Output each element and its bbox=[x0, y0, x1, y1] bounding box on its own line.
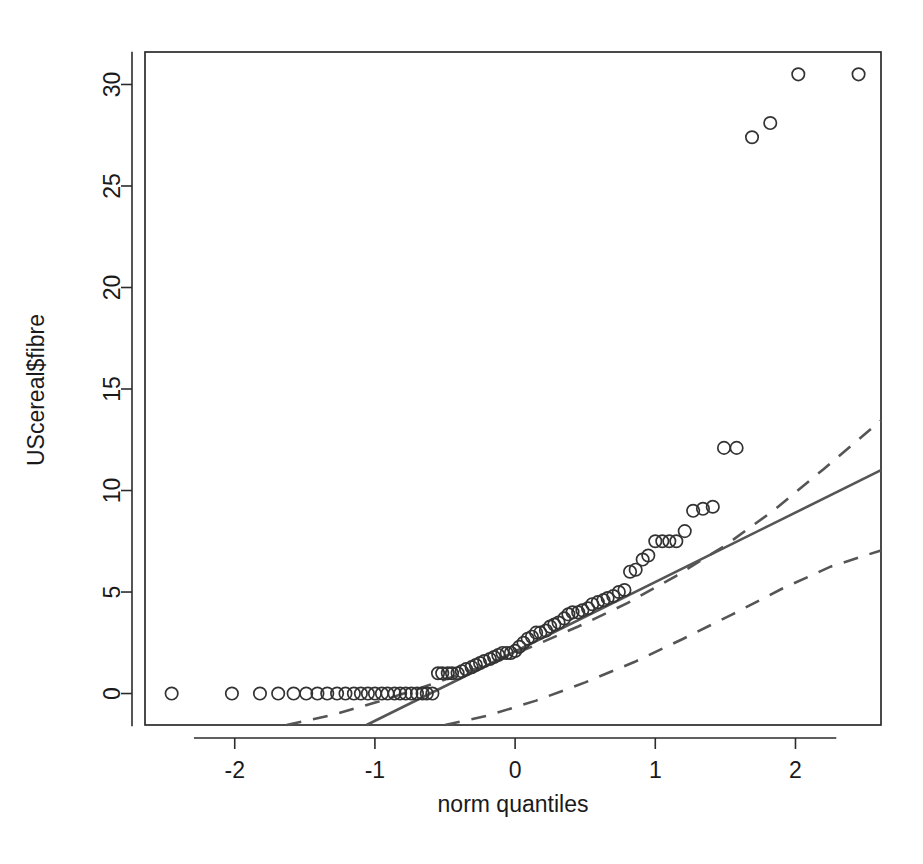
y-axis-title: UScereal$fibre bbox=[23, 314, 49, 466]
y-tick-label: 20 bbox=[99, 275, 125, 301]
confidence-bands bbox=[287, 420, 881, 725]
qq-plot-canvas: -2-1012 051015202530 norm quantiles USce… bbox=[0, 0, 923, 864]
data-point bbox=[764, 117, 776, 129]
data-point bbox=[852, 68, 864, 80]
x-tick-label: 1 bbox=[649, 757, 662, 783]
y-tick-label: 10 bbox=[99, 478, 125, 504]
confidence-band-path bbox=[287, 420, 881, 725]
data-point bbox=[679, 525, 691, 537]
y-tick-label: 15 bbox=[99, 376, 125, 402]
x-tick-label: 2 bbox=[789, 757, 802, 783]
data-point bbox=[718, 442, 730, 454]
data-point bbox=[272, 687, 284, 699]
qq-plot-figure: -2-1012 051015202530 norm quantiles USce… bbox=[0, 0, 923, 864]
data-point bbox=[254, 687, 266, 699]
reference-line-path bbox=[367, 470, 882, 725]
data-point bbox=[226, 687, 238, 699]
reference-line bbox=[367, 470, 882, 725]
x-tick-label: -2 bbox=[224, 757, 244, 783]
x-axis-title: norm quantiles bbox=[438, 791, 589, 817]
y-tick-label: 30 bbox=[99, 72, 125, 98]
data-point bbox=[792, 68, 804, 80]
confidence-band-path bbox=[445, 550, 881, 725]
y-tick-label: 0 bbox=[99, 687, 125, 700]
data-point bbox=[730, 442, 742, 454]
data-point bbox=[746, 131, 758, 143]
y-tick-label: 5 bbox=[99, 586, 125, 599]
x-tick-label: 0 bbox=[509, 757, 522, 783]
x-tick-label: -1 bbox=[365, 757, 385, 783]
plot-frame-rect bbox=[145, 52, 881, 725]
data-points bbox=[165, 68, 864, 700]
y-axis: 051015202530 bbox=[99, 52, 132, 725]
x-axis: -2-1012 bbox=[195, 738, 836, 783]
y-tick-label: 25 bbox=[99, 173, 125, 199]
data-point bbox=[165, 687, 177, 699]
plot-frame bbox=[145, 52, 881, 725]
data-point bbox=[287, 687, 299, 699]
